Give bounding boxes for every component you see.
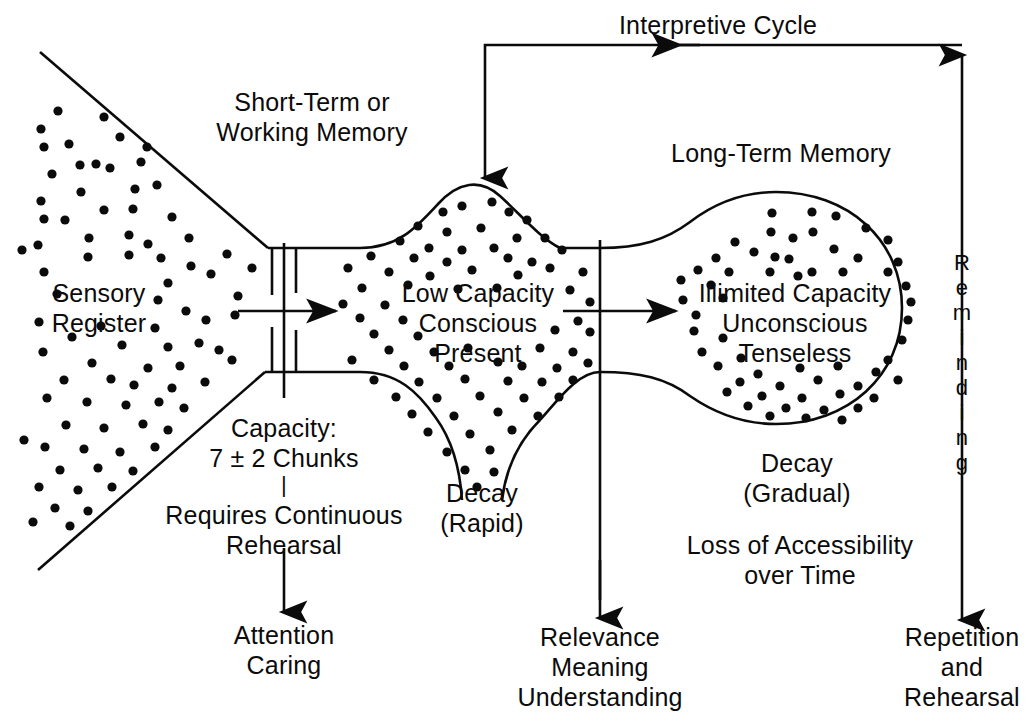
reminding-letter-5: d [953, 375, 971, 400]
reminding-letter-6: i [953, 400, 971, 425]
reminding-letter-3: i [953, 325, 971, 350]
reminding-letter-1: e [953, 275, 971, 300]
sensory-cone-bottom-edge [38, 372, 265, 570]
interpretive-cycle-path [485, 45, 962, 178]
stm-outline-upper [360, 185, 600, 248]
short-term-memory-dots [338, 197, 594, 491]
reminding-letter-2: m [953, 300, 971, 325]
reminding-letter-8: g [953, 450, 971, 475]
diagram-artwork [0, 0, 1030, 727]
reminding-letter-4: n [953, 350, 971, 375]
outline-strokes [38, 45, 962, 620]
reminding-letter-7: n [953, 425, 971, 450]
sensory-cone-top-edge [40, 52, 268, 248]
reminding-letter-0: R [953, 250, 971, 275]
sensory-register-dots [17, 106, 256, 530]
reminding-label: Reminding [953, 250, 971, 475]
memory-model-diagram: Interpretive Cycle Short-Term or Working… [0, 0, 1030, 727]
stm-outline-lower [360, 372, 600, 500]
